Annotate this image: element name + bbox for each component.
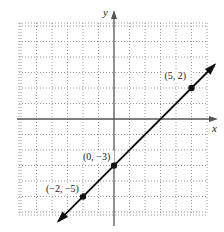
point-label-neg2-neg5: (−2, −5): [46, 183, 79, 195]
point-5-2: [188, 85, 194, 91]
y-axis-label: y: [102, 6, 108, 18]
point-0-neg3: [111, 162, 117, 168]
point-label-5-2: (5, 2): [165, 70, 187, 82]
point-label-0-neg3: (0, −3): [83, 151, 110, 163]
y-axis-arrow-icon: [111, 10, 117, 19]
x-axis-label: x: [211, 122, 217, 134]
coordinate-plane: x y (5, 2) (0, −3) (−2, −5): [0, 0, 224, 232]
